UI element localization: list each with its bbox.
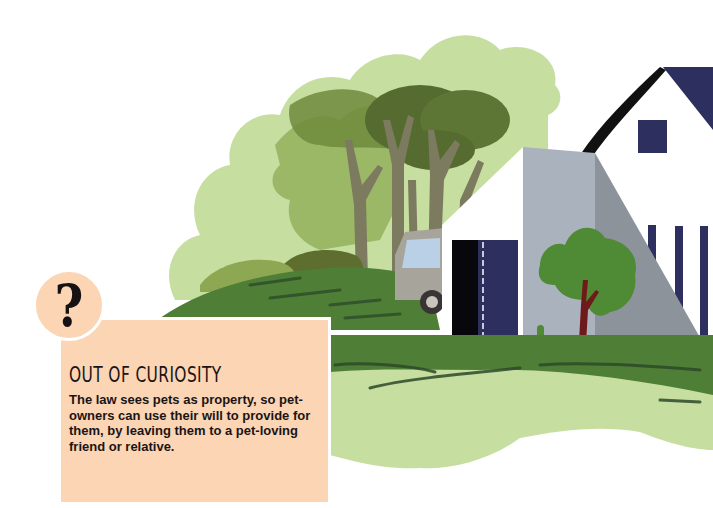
- curiosity-callout-card: OUT OF CURIOSITY The law sees pets as pr…: [58, 317, 331, 505]
- callout-title: OUT OF CURIOSITY: [69, 362, 222, 387]
- question-mark-icon: ?: [55, 277, 84, 335]
- question-badge: ?: [33, 269, 105, 341]
- outbuilding-door: [452, 240, 518, 345]
- attic-window: [638, 120, 667, 153]
- callout-body: The law sees pets as property, so pet-ow…: [69, 392, 319, 454]
